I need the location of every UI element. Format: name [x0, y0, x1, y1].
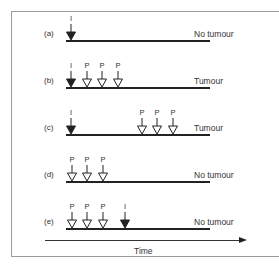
row-label-d: (d) — [44, 170, 54, 179]
timeline-a — [66, 40, 210, 42]
time-axis-line — [45, 240, 241, 241]
row-label-c: (c) — [44, 123, 53, 132]
outcome-c: Tumour — [194, 123, 223, 133]
row-label-a: (a) — [44, 29, 54, 38]
row-label-e: (e) — [44, 217, 54, 226]
outcome-b: Tumour — [194, 76, 223, 86]
time-arrowhead-icon — [239, 237, 247, 243]
outcome-d: No tumour — [194, 170, 234, 180]
outcome-e: No tumour — [194, 217, 234, 227]
time-axis-label: Time — [134, 246, 153, 256]
row-label-b: (b) — [44, 76, 54, 85]
outcome-a: No tumour — [194, 29, 234, 39]
